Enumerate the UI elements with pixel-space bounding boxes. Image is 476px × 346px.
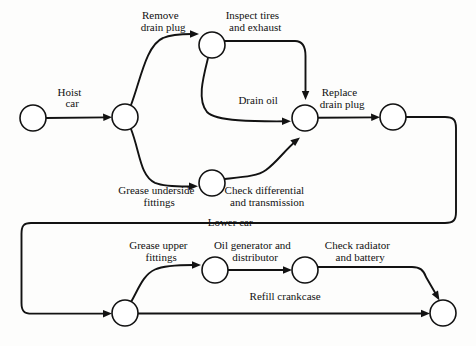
arc-oil-generator-and-distributor	[228, 266, 292, 274]
label-check-differential-and-transmission: Check differential and transmission	[225, 184, 324, 208]
label-oil-generator-and-distributor-line-1: Oil generator and	[214, 239, 291, 251]
label-check-radiator-and-battery-line-2: and battery	[336, 251, 386, 263]
arc-refill-crankcase	[138, 310, 430, 318]
label-check-radiator-and-battery-line-1: Check radiator	[325, 239, 390, 251]
arrowhead-inspect-tires-and-exhaust	[302, 91, 310, 100]
label-grease-underside-fittings-line-1: Grease underside	[118, 184, 194, 196]
arrowhead-drain-oil	[282, 118, 291, 126]
arc-grease-upper-fittings	[131, 261, 201, 302]
label-lower-car: Lower car	[208, 216, 267, 228]
label-grease-underside-fittings-line-2: fittings	[144, 196, 175, 208]
label-drain-oil-line-1: Drain oil	[238, 94, 277, 106]
node-n2[interactable]	[112, 104, 138, 130]
label-hoist-car: Hoist car	[57, 86, 100, 109]
node-n7[interactable]	[112, 300, 138, 326]
arc-line-check-differential-and-transmission	[225, 141, 296, 179]
arc-line-check-radiator-and-battery	[318, 267, 437, 296]
label-refill-crankcase-line-1: Refill crankcase	[250, 290, 321, 302]
arc-grease-underside-fittings	[131, 129, 198, 190]
arrowhead-replace-drain-plug	[371, 114, 380, 122]
node-n10[interactable]	[430, 300, 456, 326]
label-refill-crankcase: Refill crankcase	[250, 290, 335, 302]
arc-hoist-car	[46, 114, 112, 122]
label-grease-upper-fittings-line-2: fittings	[146, 251, 177, 263]
node-n5[interactable]	[380, 104, 406, 130]
label-drain-oil: Drain oil	[238, 94, 291, 106]
network-diagram: Hoist car Remove drain plug Inspect tire…	[0, 0, 476, 346]
label-replace-drain-plug-line-2: drain plug	[320, 98, 365, 110]
label-grease-upper-fittings-line-1: Grease upper	[129, 239, 188, 251]
label-remove-drain-plug-line-1: Remove	[142, 9, 179, 21]
label-replace-drain-plug: Replace drain plug	[320, 86, 379, 110]
node-n3[interactable]	[199, 32, 225, 58]
arc-line-grease-underside-fittings	[131, 129, 193, 186]
arrowhead-oil-generator-and-distributor	[283, 266, 292, 274]
arc-replace-drain-plug	[318, 114, 380, 122]
arc-line-remove-drain-plug	[131, 34, 194, 105]
label-remove-drain-plug-line-2: drain plug	[141, 21, 186, 33]
arc-line-hoist-car	[46, 117, 107, 118]
label-check-differential-and-transmission-line-1: Check differential	[225, 184, 305, 196]
arc-inspect-tires-and-exhaust	[225, 41, 309, 100]
arc-line-drain-oil	[202, 58, 286, 121]
label-check-radiator-and-battery: Check radiator and battery	[325, 239, 409, 263]
label-check-differential-and-transmission-line-2: and transmission	[230, 196, 305, 208]
node-n4[interactable]	[292, 105, 318, 131]
label-lower-car-line-1: Lower car	[208, 216, 253, 228]
arc-line-grease-upper-fittings	[131, 265, 196, 302]
node-n1[interactable]	[20, 105, 46, 131]
label-oil-generator-and-distributor: Oil generator and distributor	[214, 239, 310, 263]
node-n8[interactable]	[202, 257, 228, 283]
node-n9[interactable]	[292, 257, 318, 283]
arc-drain-oil	[202, 58, 291, 125]
label-hoist-car-line-2: car	[65, 97, 79, 109]
arrowhead-refill-crankcase	[421, 310, 430, 318]
arc-check-radiator-and-battery	[318, 267, 440, 301]
arrowhead-hoist-car	[103, 114, 112, 122]
arc-remove-drain-plug	[131, 30, 199, 105]
label-inspect-tires-and-exhaust: Inspect tires and exhaust	[226, 9, 299, 33]
network-diagram-canvas: Hoist car Remove drain plug Inspect tire…	[0, 0, 476, 346]
arc-check-differential-and-transmission	[225, 138, 300, 180]
arrowhead-check-radiator-and-battery	[432, 291, 440, 301]
label-replace-drain-plug-line-1: Replace	[322, 86, 358, 98]
label-grease-underside-fittings: Grease underside fittings	[118, 184, 213, 208]
arc-line-inspect-tires-and-exhaust	[225, 41, 306, 95]
label-grease-upper-fittings: Grease upper fittings	[129, 239, 207, 263]
arrowhead-grease-upper-fittings	[192, 261, 201, 269]
label-oil-generator-and-distributor-line-2: distributor	[232, 251, 278, 263]
label-inspect-tires-and-exhaust-line-2: and exhaust	[229, 21, 281, 33]
arrowhead-lower-car	[103, 310, 112, 318]
label-inspect-tires-and-exhaust-line-1: Inspect tires	[226, 9, 279, 21]
label-remove-drain-plug: Remove drain plug	[141, 9, 200, 33]
